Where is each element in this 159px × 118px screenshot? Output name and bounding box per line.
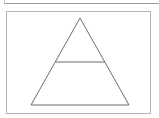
pyramid-diagram <box>0 0 159 118</box>
